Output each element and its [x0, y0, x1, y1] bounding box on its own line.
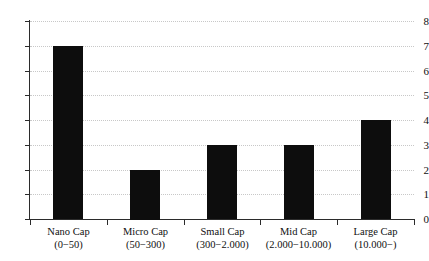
category-range: (50−300) — [107, 239, 184, 252]
y-tick-label: 0 — [407, 214, 429, 225]
x-tick-mark — [414, 220, 415, 225]
x-axis-category-label: Large Cap(10.000−) — [337, 226, 414, 251]
category-name: Nano Cap — [30, 226, 107, 239]
y-tick-label: 4 — [407, 115, 429, 126]
y-tick-mark — [25, 170, 30, 171]
bar — [53, 46, 83, 219]
bar — [284, 145, 314, 219]
bar — [207, 145, 237, 219]
category-name: Mid Cap — [260, 226, 337, 239]
y-tick-mark — [25, 95, 30, 96]
category-range: (10.000−) — [337, 239, 414, 252]
y-tick-label: 2 — [407, 165, 429, 176]
y-tick-label: 6 — [407, 66, 429, 77]
x-tick-mark — [107, 220, 108, 225]
x-axis-category-label: Micro Cap(50−300) — [107, 226, 184, 251]
x-tick-mark — [260, 220, 261, 225]
x-axis-line — [29, 219, 415, 220]
category-name: Micro Cap — [107, 226, 184, 239]
x-axis-category-label: Mid Cap(2.000−10.000) — [260, 226, 337, 251]
x-axis-category-label: Small Cap(300−2.000) — [184, 226, 261, 251]
y-tick-label: 8 — [407, 16, 429, 27]
y-tick-mark — [25, 145, 30, 146]
gridline — [30, 120, 414, 121]
x-tick-mark — [184, 220, 185, 225]
x-tick-mark — [337, 220, 338, 225]
y-tick-mark — [25, 46, 30, 47]
y-tick-mark — [25, 21, 30, 22]
y-tick-mark — [25, 120, 30, 121]
bar — [130, 170, 160, 220]
y-tick-mark — [25, 194, 30, 195]
y-tick-mark — [25, 71, 30, 72]
gridline — [30, 71, 414, 72]
y-tick-label: 3 — [407, 140, 429, 151]
gridline — [30, 21, 414, 22]
category-name: Large Cap — [337, 226, 414, 239]
x-tick-mark — [30, 220, 31, 225]
gridline — [30, 46, 414, 47]
category-range: (0−50) — [30, 239, 107, 252]
bar-chart: 012345678 Nano Cap(0−50)Micro Cap(50−300… — [0, 0, 429, 261]
gridline — [30, 95, 414, 96]
category-range: (300−2.000) — [184, 239, 261, 252]
y-tick-label: 1 — [407, 189, 429, 200]
y-tick-label: 5 — [407, 90, 429, 101]
bar — [361, 120, 391, 219]
x-axis-category-label: Nano Cap(0−50) — [30, 226, 107, 251]
y-tick-label: 7 — [407, 41, 429, 52]
category-range: (2.000−10.000) — [260, 239, 337, 252]
category-name: Small Cap — [184, 226, 261, 239]
